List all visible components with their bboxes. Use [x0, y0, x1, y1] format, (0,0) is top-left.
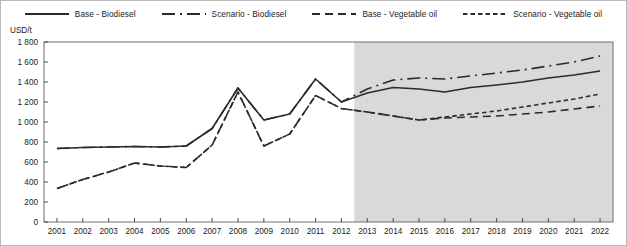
y-tick-label: 1 400 — [18, 78, 39, 87]
x-tick-label: 2016 — [436, 227, 455, 236]
projection-region — [354, 42, 613, 222]
y-tick-label: 1 000 — [18, 118, 39, 127]
y-tick-label: 800 — [24, 138, 38, 147]
y-tick-label: 1 200 — [18, 98, 39, 107]
x-tick-label: 2011 — [307, 227, 325, 236]
x-tick-label: 2004 — [125, 227, 144, 236]
x-tick-label: 2009 — [255, 227, 274, 236]
x-tick-label: 2019 — [513, 227, 532, 236]
x-tick-label: 2015 — [410, 227, 429, 236]
plot-area: 02004006008001 0001 2001 4001 6001 800 2… — [0, 0, 627, 246]
y-tick-label: 1 600 — [18, 58, 39, 67]
y-tick-label: 1 800 — [18, 38, 39, 47]
projection-shading — [354, 42, 613, 222]
y-axis-ticks: 02004006008001 0001 2001 4001 6001 800 — [18, 38, 49, 227]
y-tick-label: 600 — [24, 158, 38, 167]
x-tick-label: 2010 — [281, 227, 300, 236]
x-tick-label: 2003 — [100, 227, 119, 236]
x-tick-label: 2013 — [358, 227, 377, 236]
x-tick-label: 2018 — [488, 227, 507, 236]
x-tick-label: 2021 — [565, 227, 584, 236]
y-tick-label: 0 — [33, 218, 38, 227]
x-tick-label: 2012 — [332, 227, 351, 236]
y-tick-label: 400 — [24, 178, 38, 187]
x-tick-label: 2014 — [384, 227, 403, 236]
x-tick-label: 2008 — [229, 227, 248, 236]
x-tick-label: 2007 — [203, 227, 222, 236]
x-tick-label: 2002 — [74, 227, 93, 236]
plot-svg: 02004006008001 0001 2001 4001 6001 800 2… — [0, 0, 627, 246]
y-tick-label: 200 — [24, 198, 38, 207]
x-tick-label: 2022 — [591, 227, 610, 236]
chart-figure: Base - Biodiesel Scenario - Biodiesel Ba… — [0, 0, 627, 246]
x-tick-label: 2001 — [48, 227, 67, 236]
x-tick-label: 2006 — [177, 227, 196, 236]
x-tick-label: 2020 — [539, 227, 558, 236]
x-tick-label: 2017 — [462, 227, 481, 236]
x-tick-label: 2005 — [151, 227, 170, 236]
